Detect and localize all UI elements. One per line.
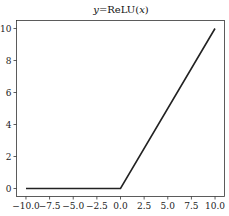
plot-frame — [17, 21, 225, 197]
x-tick-label: −10.0 — [12, 201, 40, 211]
x-axis-ticks: −10.0−7.5−5.0−2.50.02.55.07.510.0 — [12, 197, 225, 211]
y-tick-label: 6 — [6, 88, 12, 98]
x-tick-label: −7.5 — [39, 201, 61, 211]
x-tick-label: 10.0 — [205, 201, 225, 211]
x-tick-label: 2.5 — [137, 201, 152, 211]
y-tick-label: 4 — [6, 120, 12, 130]
x-tick-label: 7.5 — [184, 201, 199, 211]
relu-chart: y=ReLU(x) 0246810 −10.0−7.5−5.0−2.50.02.… — [0, 0, 229, 216]
x-tick-label: 5.0 — [161, 201, 176, 211]
x-tick-label: −2.5 — [86, 201, 108, 211]
relu-line — [26, 29, 215, 189]
y-tick-label: 8 — [6, 56, 12, 66]
y-tick-label: 2 — [6, 152, 12, 162]
y-tick-label: 0 — [6, 184, 12, 194]
chart-title: y=ReLU(x) — [92, 4, 149, 15]
x-tick-label: −5.0 — [62, 201, 84, 211]
y-axis-ticks: 0246810 — [0, 24, 16, 194]
y-tick-label: 10 — [0, 24, 12, 34]
x-tick-label: 0.0 — [113, 201, 128, 211]
